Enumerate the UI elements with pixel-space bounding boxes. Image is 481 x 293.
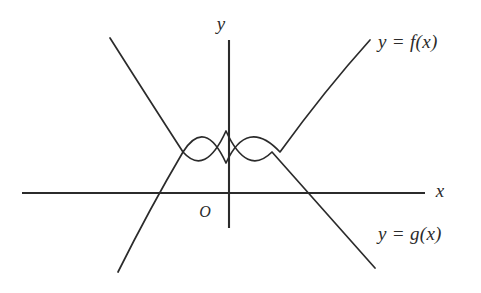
curve-label-f: y = f(x): [376, 31, 438, 53]
math-graph-figure: y x O y = f(x) y = g(x): [0, 0, 481, 293]
x-axis-label: x: [435, 180, 445, 201]
y-axis-label: y: [215, 13, 226, 34]
graph-canvas: y x O y = f(x) y = g(x): [0, 0, 481, 293]
origin-label: O: [199, 203, 211, 220]
curve-label-g: y = g(x): [376, 223, 442, 245]
curve-g: [110, 38, 375, 268]
